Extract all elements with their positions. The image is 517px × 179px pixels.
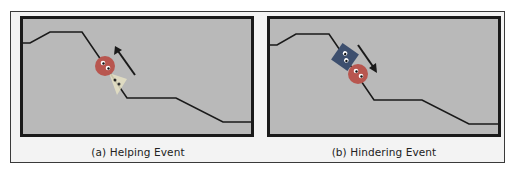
circle-climber-icon <box>348 64 368 84</box>
hill-line <box>23 32 254 122</box>
panel-hindering <box>267 16 501 137</box>
circle-climber-icon <box>95 56 115 76</box>
hill-line <box>270 34 501 124</box>
caption-helping: (a) Helping Event <box>18 146 258 158</box>
panel-helping <box>20 16 254 137</box>
caption-hindering: (b) Hindering Event <box>264 146 504 158</box>
arrow-up-slope-icon <box>114 46 135 75</box>
hindering-scene <box>270 19 501 137</box>
triangle-helper-icon <box>109 73 127 95</box>
helping-scene <box>23 19 254 137</box>
